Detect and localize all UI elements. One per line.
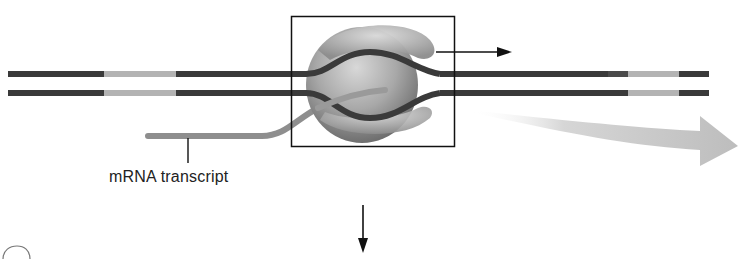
dna-strand-top-left xyxy=(8,71,308,77)
rna-polymerase-icon xyxy=(306,25,434,143)
arrow-right-icon xyxy=(436,47,512,57)
diagram-graphic xyxy=(0,0,738,259)
dna-strand-bottom-left xyxy=(8,90,308,96)
arrow-down-icon xyxy=(358,205,368,253)
transcription-diagram: mRNA transcript xyxy=(0,0,738,259)
step-marker-icon xyxy=(3,246,30,259)
dna-strand-top-right xyxy=(440,71,709,77)
dna-strand-bottom-right xyxy=(440,90,709,96)
mrna-transcript-label: mRNA transcript xyxy=(109,168,228,186)
big-arrow-icon xyxy=(470,110,738,166)
